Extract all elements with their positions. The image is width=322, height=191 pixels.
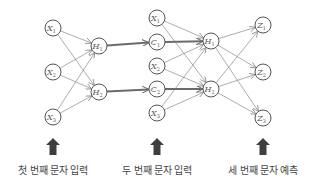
- edge-h2a-to-c2: [107, 89, 149, 91]
- edge-x2a-to-h1a: [60, 50, 92, 68]
- node-h1a: H1: [91, 38, 107, 54]
- node-z2: Z2: [255, 64, 271, 80]
- node-x2a: X2: [45, 64, 61, 80]
- nodes-layer: X1X2X3H1H2X1C1X2C2X3H1H2Z1Z2Z3: [45, 10, 271, 126]
- edge-h2b-to-z3: [218, 93, 256, 114]
- node-z3: Z3: [255, 110, 271, 126]
- node-x1b: X1: [149, 10, 165, 26]
- node-c2: C2: [149, 81, 165, 97]
- edge-c1-to-h1b: [165, 41, 203, 42]
- edge-h1a-to-c1: [107, 43, 149, 46]
- edge-x1a-to-h1a: [60, 31, 91, 43]
- node-x1a: X1: [45, 20, 61, 36]
- caption-third-char-prediction: 세 번째 문자 예측: [228, 162, 298, 177]
- caption-second-char-input: 두 번째 문자 입력: [122, 162, 192, 177]
- edge-h1b-to-z2: [218, 45, 256, 68]
- caption-first-char-input: 첫 번째 문자 입력: [18, 162, 88, 177]
- arrow-third-up-arrow-icon: [256, 138, 270, 155]
- edge-x3a-to-h1a: [57, 53, 94, 110]
- node-z1: Z1: [255, 17, 271, 33]
- node-x3a: X3: [45, 109, 61, 125]
- node-h1b: H1: [203, 33, 219, 49]
- edge-h2b-to-z2: [219, 75, 255, 87]
- node-x2b: X2: [149, 58, 165, 74]
- up-arrows-layer: [46, 138, 270, 155]
- node-h2a: H2: [91, 84, 107, 100]
- arrow-first-up-arrow-icon: [46, 138, 60, 155]
- edge-x3b-to-h1b: [162, 48, 206, 107]
- edge-x2b-to-h1b: [164, 45, 203, 63]
- arrow-second-up-arrow-icon: [150, 138, 164, 155]
- node-x3b: X3: [149, 105, 165, 121]
- node-c1: C1: [149, 34, 165, 50]
- node-h2b: H2: [203, 81, 219, 97]
- edge-h1b-to-z1: [219, 28, 255, 39]
